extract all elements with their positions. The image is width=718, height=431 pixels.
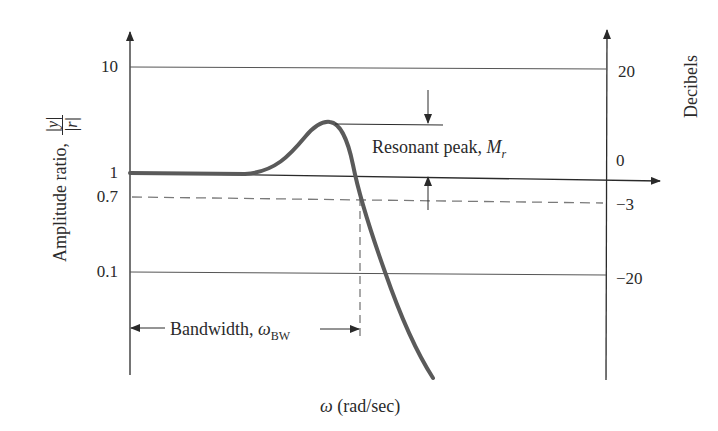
tick-label-0.1: 0.1 — [58, 263, 118, 280]
bandwidth-symbol: ω — [258, 319, 271, 339]
tick-label-db-0: 0 — [616, 152, 625, 169]
peak-reference-line — [335, 124, 443, 125]
resonant-peak-symbol: M — [486, 137, 501, 157]
tick-label-10: 10 — [58, 58, 118, 75]
bandwidth-subscript: BW — [271, 329, 290, 343]
gridline-0.1 — [130, 272, 606, 275]
tick-label-db-minus3: −3 — [616, 196, 634, 213]
resonant-peak-text: Resonant peak, — [372, 137, 486, 157]
resonant-peak-subscript: r — [501, 147, 506, 161]
fraction-denominator: |r| — [63, 115, 81, 135]
bandwidth-label: Bandwidth, ωBW — [170, 320, 290, 342]
x-axis-title: ω (rad/sec) — [320, 397, 400, 415]
amplitude-fraction: |y| |r| — [44, 115, 80, 135]
fraction-numerator: |y| — [44, 115, 63, 135]
right-axis-title: Decibels — [682, 55, 700, 118]
x-axis-omega: ω — [320, 396, 333, 416]
tick-label-db-minus20: −20 — [616, 270, 643, 287]
right-y-axis — [606, 30, 607, 380]
bandwidth-text: Bandwidth, — [170, 319, 258, 339]
dashed-line-0.7 — [132, 197, 603, 203]
bode-magnitude-diagram: 10 1 0.7 0.1 20 0 −3 −20 Amplitude ratio… — [0, 0, 718, 431]
tick-label-db-20: 20 — [618, 63, 635, 80]
gridline-10 — [130, 67, 606, 69]
resonant-peak-label: Resonant peak, Mr — [372, 138, 506, 160]
left-axis-title-text: Amplitude ratio, — [50, 143, 70, 262]
left-axis-title: Amplitude ratio, |y| |r| — [44, 115, 80, 262]
x-axis-unit: (rad/sec) — [333, 396, 400, 416]
